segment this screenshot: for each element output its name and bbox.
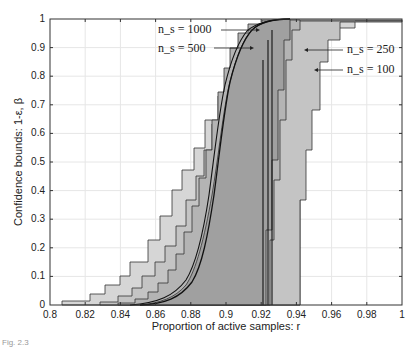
- svg-text:0.94: 0.94: [287, 309, 307, 320]
- svg-text:0.98: 0.98: [357, 309, 377, 320]
- svg-text:0.4: 0.4: [31, 185, 45, 196]
- svg-text:0.1: 0.1: [31, 270, 45, 281]
- figure-caption-fragment: Fig. 2.3: [2, 338, 29, 347]
- svg-text:0.84: 0.84: [111, 309, 131, 320]
- svg-text:0.2: 0.2: [31, 242, 45, 253]
- y-axis-label: Confidence bounds: 1-ε, β: [12, 98, 24, 226]
- svg-text:0.92: 0.92: [251, 309, 271, 320]
- x-axis-label: Proportion of active samples: r: [152, 320, 301, 332]
- annotation-ns-500: n_s = 500: [158, 41, 205, 55]
- annotation-ns-100: n_s = 100: [347, 62, 394, 76]
- svg-text:0.5: 0.5: [31, 156, 45, 167]
- svg-text:0.6: 0.6: [31, 127, 45, 138]
- svg-text:0.3: 0.3: [31, 213, 45, 224]
- x-tick-labels: 0.8 0.82 0.84 0.86 0.88 0.9 0.92 0.94 0.…: [43, 309, 405, 320]
- y-tick-labels: 0 0.1 0.2 0.3 0.4 0.5 0.6 0.7 0.8 0.9 1: [31, 13, 45, 310]
- svg-text:0.9: 0.9: [31, 42, 45, 53]
- svg-text:0.7: 0.7: [31, 99, 45, 110]
- svg-text:1: 1: [399, 309, 405, 320]
- svg-text:0.86: 0.86: [146, 309, 166, 320]
- svg-text:0: 0: [39, 299, 45, 310]
- svg-text:0.88: 0.88: [181, 309, 201, 320]
- svg-text:0.8: 0.8: [43, 309, 57, 320]
- svg-text:0.82: 0.82: [75, 309, 95, 320]
- svg-text:0.96: 0.96: [322, 309, 342, 320]
- annotation-ns-250: n_s = 250: [347, 42, 394, 56]
- annotation-ns-1000: n_s = 1000: [158, 22, 211, 36]
- svg-text:1: 1: [39, 13, 45, 24]
- cdf-confidence-chart: 0.8 0.82 0.84 0.86 0.88 0.9 0.92 0.94 0.…: [0, 0, 419, 349]
- svg-text:0.9: 0.9: [219, 309, 233, 320]
- svg-text:0.8: 0.8: [31, 70, 45, 81]
